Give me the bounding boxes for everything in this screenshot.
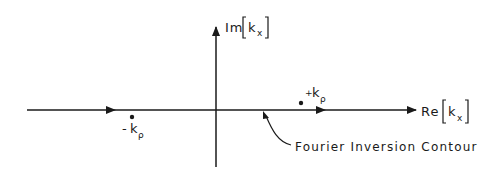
real-axis-contour [27, 106, 416, 114]
imaginary-axis-label: Im k x [225, 17, 268, 38]
complex-plane-diagram: Im k x Re k x - k ρ + k ρ Fourier Invers… [0, 0, 500, 176]
leader-arrow-icon [263, 111, 269, 119]
leader-line [266, 116, 291, 145]
pole-sign: - [122, 121, 128, 136]
pole-negative-k-rho: - k ρ [122, 115, 144, 140]
re-var: k [448, 104, 457, 119]
im-prefix: Im [225, 20, 244, 35]
im-var: k [248, 20, 257, 35]
pole-positive-k-rho: + k ρ [299, 85, 326, 105]
left-bracket-icon [243, 17, 246, 38]
pole-sub: ρ [320, 94, 326, 104]
im-sub: x [257, 28, 263, 38]
re-sub: x [457, 113, 463, 123]
pole-sub: ρ [138, 130, 144, 140]
pole-dot-icon [299, 101, 303, 105]
re-prefix: Re [421, 104, 439, 119]
contour-direction-arrow-right-icon [316, 106, 326, 114]
contour-annotation: Fourier Inversion Contour [263, 111, 478, 154]
pole-dot-icon [130, 115, 134, 119]
contour-direction-arrow-left-icon [106, 106, 116, 114]
right-bracket-icon [465, 100, 468, 123]
real-axis-label: Re k x [421, 100, 468, 123]
contour-label: Fourier Inversion Contour [295, 140, 478, 154]
right-bracket-icon [265, 17, 268, 38]
left-bracket-icon [443, 100, 446, 123]
